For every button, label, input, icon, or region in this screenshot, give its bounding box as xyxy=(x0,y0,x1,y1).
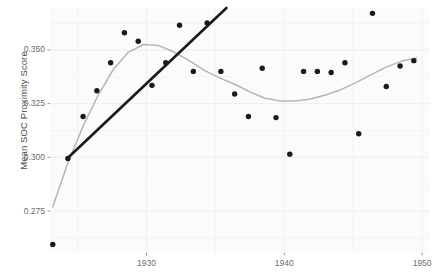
y-tick-label: 0.325 xyxy=(24,98,45,108)
data-point xyxy=(384,84,389,89)
data-point xyxy=(411,58,416,63)
data-point xyxy=(397,63,402,68)
data-point xyxy=(342,60,347,65)
data-point xyxy=(94,88,99,93)
data-point xyxy=(108,60,113,65)
data-point xyxy=(315,69,320,74)
data-point xyxy=(301,69,306,74)
data-point xyxy=(246,114,251,119)
data-point xyxy=(370,11,375,16)
x-tick-label: 1930 xyxy=(126,258,166,268)
y-tick-label: 0.275 xyxy=(24,206,45,216)
data-point xyxy=(218,69,223,74)
data-point xyxy=(328,70,333,75)
data-point xyxy=(136,39,141,44)
data-point xyxy=(260,65,265,70)
data-point xyxy=(149,83,154,88)
data-point xyxy=(273,115,278,120)
data-point xyxy=(80,114,85,119)
data-point xyxy=(204,20,209,25)
x-tick-label: 1940 xyxy=(264,258,304,268)
data-point xyxy=(191,69,196,74)
data-point xyxy=(65,156,70,161)
data-point xyxy=(163,60,168,65)
data-point xyxy=(177,22,182,27)
data-point xyxy=(50,242,55,247)
data-point xyxy=(122,30,127,35)
data-point xyxy=(356,131,361,136)
y-tick-label: 0.350 xyxy=(24,44,45,54)
x-tick-label: 1950 xyxy=(402,258,435,268)
y-tick-label: 0.300 xyxy=(24,152,45,162)
chart-container: Mean SOC Proximity Score 0.2750.3000.325… xyxy=(0,0,435,278)
data-point xyxy=(232,91,237,96)
scatter-plot-svg xyxy=(0,0,435,278)
data-point xyxy=(287,151,292,156)
